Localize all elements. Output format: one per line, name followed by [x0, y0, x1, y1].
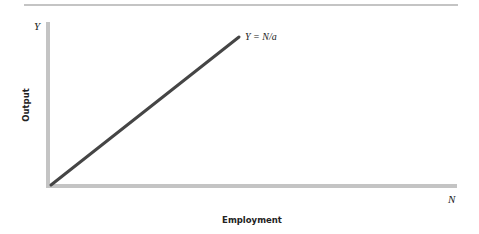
y-axis-label: Output	[21, 88, 31, 122]
line-label: Y = N/a	[245, 31, 277, 42]
production-function-diagram: Y N Y = N/a Output Employment	[0, 0, 479, 234]
x-axis-label: Employment	[222, 215, 282, 225]
x-axis-symbol: N	[447, 193, 456, 205]
production-line	[51, 37, 239, 185]
y-axis-symbol: Y	[34, 20, 42, 32]
